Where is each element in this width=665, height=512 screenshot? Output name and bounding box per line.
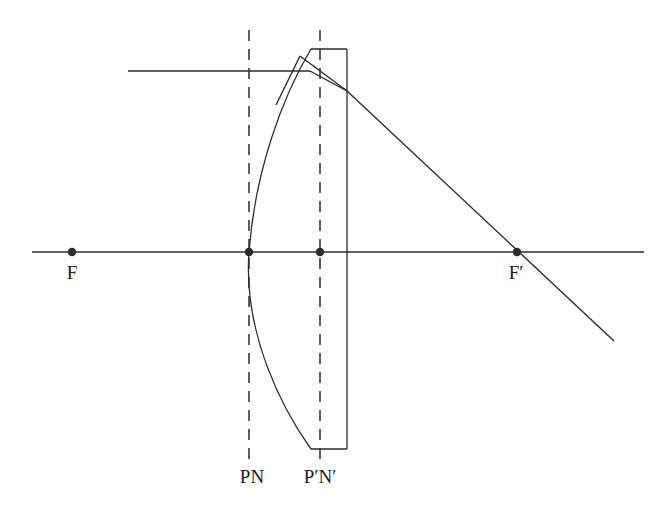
lens-body-group xyxy=(248,49,347,449)
optics-diagram: FF′PNP′N′ xyxy=(0,0,665,512)
principal-plane-group xyxy=(249,30,320,466)
point-Fprime xyxy=(513,248,521,256)
point-F xyxy=(68,248,76,256)
point-P xyxy=(245,248,253,256)
ray-emergent-ray-through-F-prime xyxy=(347,91,614,341)
label-PprimeNprime: P′N′ xyxy=(304,466,337,487)
ray-construction-ray-to-principal-plane xyxy=(300,56,347,91)
ray-trace-group xyxy=(128,56,614,341)
label-F: F xyxy=(67,262,78,283)
optics-svg-canvas: FF′PNP′N′ xyxy=(0,0,665,512)
ray-construction-ray-lower-left xyxy=(276,56,300,105)
lens-convex-surface xyxy=(248,49,311,449)
point-Pprime xyxy=(316,248,324,256)
diagram-labels-group: FF′PNP′N′ xyxy=(67,262,524,487)
label-Fprime: F′ xyxy=(509,262,524,283)
label-PN: PN xyxy=(240,466,265,487)
ray-internal-refracted-ray xyxy=(310,71,347,91)
